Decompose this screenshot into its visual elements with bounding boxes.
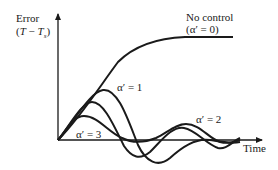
alpha-0-label: (α′ = 0) <box>186 24 219 35</box>
minus-sign: − <box>26 25 38 37</box>
alpha-2-label: α′ = 2 <box>196 114 221 125</box>
no-control-label: No control <box>186 12 233 23</box>
x-axis-label: Time <box>243 143 266 154</box>
y-axis-label-line1: Error <box>16 13 39 24</box>
alpha-1-label: α′ = 1 <box>117 82 142 93</box>
paren-close: ) <box>46 25 50 37</box>
alpha-3-label: α′ = 3 <box>76 129 101 140</box>
y-axis-label-line2: (T − Ts) <box>16 26 50 40</box>
